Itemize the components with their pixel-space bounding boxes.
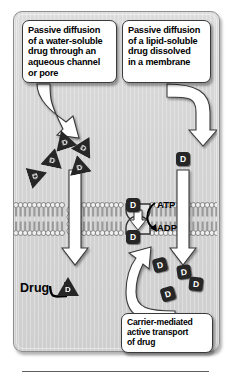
callout-lipid-soluble[interactable]: Passive diffusion of a lipid-soluble dru… [122,20,211,83]
callout-line: Passive diffusion [28,25,116,36]
drug-marker-square: D [126,198,140,212]
callout-line: in a membrane [128,57,210,68]
callout-line: of drug [127,338,212,348]
callout-carrier-mediated[interactable]: Carrier-mediated active transport of dru… [121,313,213,353]
drug-marker-square: D [176,152,190,166]
callout-line: drug through an [28,46,116,57]
atp-label: ATP [157,199,175,210]
lipid-soluble-pathway-arrow [167,84,217,146]
drug-label: Drug [20,281,49,295]
bottom-divider [22,371,209,372]
callout-line: of a water-soluble [28,36,116,47]
drug-marker-square: D [188,276,203,291]
callout-line: Passive diffusion [128,25,210,36]
callout-line: or pore [28,68,116,79]
membrane-diffusion-arrow [170,170,196,265]
membrane-transport-figure: Passive diffusion of a water-soluble dru… [0,0,231,383]
water-soluble-pathway-arrow [37,84,79,138]
pore-diffusion-arrow [62,170,88,265]
callout-line: aqueous channel [28,57,116,68]
callout-line: of a lipid-soluble [128,36,210,47]
drug-marker-square: D [126,230,140,244]
adp-label: ADP [157,222,177,233]
callout-water-soluble[interactable]: Passive diffusion of a water-soluble dru… [22,20,117,83]
callout-line: drug dissolved [128,46,210,57]
carrier-callout-arrow [126,247,175,322]
